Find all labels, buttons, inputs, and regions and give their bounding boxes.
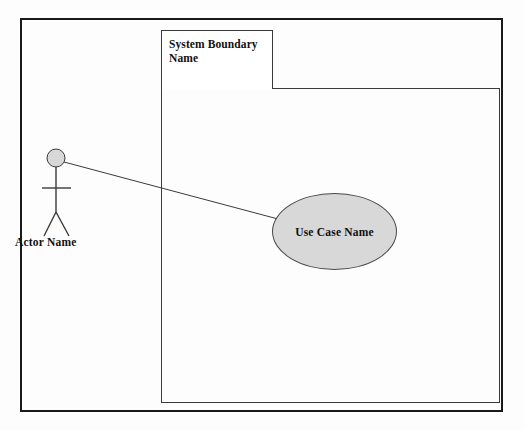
system-boundary-name-tab[interactable]: System Boundary Name [161, 30, 273, 89]
use-case-name-label: Use Case Name [295, 226, 374, 238]
system-boundary-name-label: System Boundary Name [169, 37, 269, 65]
use-case-ellipse[interactable]: Use Case Name [272, 193, 397, 270]
actor-figure[interactable]: Actor Name [14, 145, 109, 260]
uml-use-case-diagram: System Boundary Name Use Case Name Actor… [0, 0, 524, 430]
actor-name-label: Actor Name [15, 236, 77, 248]
